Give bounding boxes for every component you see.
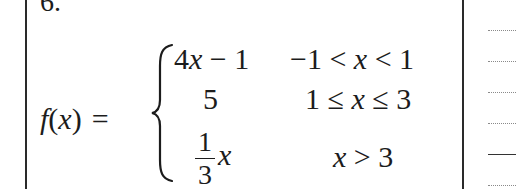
variable: x (354, 42, 367, 75)
case-2-condition: 1 ≤ x ≤ 3 (305, 84, 411, 114)
function-lhs: f(x)= (40, 104, 109, 134)
condition-right: > 3 (346, 140, 393, 173)
case-3-fraction: 1 3 (194, 128, 216, 189)
variable: x (333, 140, 346, 173)
fraction-denominator: 3 (194, 161, 216, 189)
variable: x (58, 102, 71, 135)
condition-left: 1 ≤ (305, 82, 351, 115)
variable: x (189, 42, 202, 75)
condition-right: < 1 (367, 42, 414, 75)
answer-line (488, 185, 516, 186)
answer-line (488, 154, 516, 155)
left-border (25, 0, 27, 189)
equals-sign: = (92, 102, 109, 135)
case-3-condition: x > 3 (333, 142, 393, 172)
condition-left: −1 < (290, 42, 354, 75)
coefficient: 4 (174, 42, 189, 75)
problem-number: 6. (40, 0, 61, 18)
paren-open: ( (48, 102, 58, 135)
case-2-expression: 5 (203, 84, 218, 114)
variable: x (351, 82, 364, 115)
right-border (462, 0, 464, 189)
case-3-variable: x (218, 140, 231, 170)
condition-right: ≤ 3 (365, 82, 411, 115)
paren-close: ) (72, 102, 82, 135)
constant-term: − 1 (202, 42, 249, 75)
fraction-numerator: 1 (194, 128, 216, 156)
case-1-condition: −1 < x < 1 (290, 44, 414, 74)
answer-line (488, 92, 516, 93)
answer-line (488, 123, 516, 124)
answer-line (488, 30, 516, 31)
answer-line (488, 61, 516, 62)
case-1-expression: 4x − 1 (174, 44, 249, 74)
left-brace-icon (150, 42, 176, 184)
